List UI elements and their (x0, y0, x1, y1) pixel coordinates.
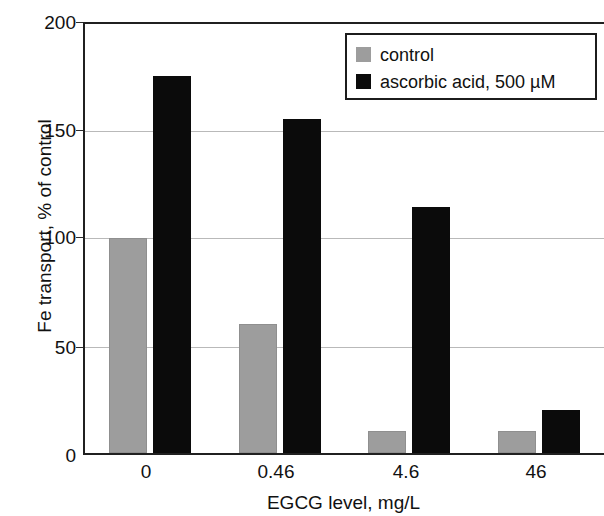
legend-entry-ascorbic: ascorbic acid, 500 µM (356, 68, 595, 95)
x-tick-label-0-46: 0.46 (221, 462, 331, 481)
y-tick-label-200: 200 (18, 13, 76, 32)
bar-control-0 (109, 238, 147, 454)
y-tick-mark-200 (76, 22, 83, 23)
bar-ascorbic-acid-4.6 (412, 207, 450, 453)
x-tick-label-46: 46 (481, 462, 591, 481)
bar-chart-figure: Fe transport, % of control 200 150 100 5… (0, 0, 604, 516)
y-tick-mark-150 (76, 130, 83, 131)
bar-ascorbic-acid-46 (542, 410, 580, 453)
x-tick-label-0: 0 (91, 462, 201, 481)
bar-control-4.6 (368, 431, 406, 453)
y-tick-label-0: 0 (18, 446, 76, 465)
y-tick-label-50: 50 (18, 338, 76, 357)
x-axis-title: EGCG level, mg/L (83, 492, 604, 514)
legend-label-ascorbic: ascorbic acid, 500 µM (380, 73, 555, 91)
legend-swatch-ascorbic-icon (356, 74, 371, 89)
bar-ascorbic-acid-0.46 (283, 119, 321, 453)
x-tick-label-4-6: 4.6 (351, 462, 461, 481)
legend-entry-control: control (356, 41, 595, 68)
legend-swatch-control-icon (356, 47, 371, 62)
y-axis-ticks: 200 150 100 50 0 (14, 0, 76, 516)
bar-control-0.46 (239, 324, 277, 453)
legend: control ascorbic acid, 500 µM (345, 33, 597, 100)
y-tick-label-150: 150 (18, 121, 76, 140)
x-axis-ticks: 0 0.46 4.6 46 (83, 462, 604, 488)
bar-ascorbic-acid-0 (153, 76, 191, 453)
y-tick-mark-50 (76, 347, 83, 348)
bar-control-46 (498, 431, 536, 453)
y-tick-mark-100 (76, 237, 83, 238)
legend-label-control: control (380, 46, 434, 64)
y-tick-label-100: 100 (18, 228, 76, 247)
